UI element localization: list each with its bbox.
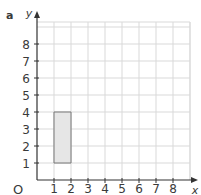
part-label: a [6,9,13,22]
x-tick-label: 7 [152,182,160,195]
y-tick-label: 2 [22,140,30,154]
x-tick-label: 8 [169,182,177,195]
x-tick-label: 4 [101,182,109,195]
y-tick-label: 7 [22,55,30,69]
y-tick-label: 8 [22,38,30,52]
rectangle-shape [54,112,71,163]
y-tick-label: 1 [22,157,30,171]
x-tick-label: 5 [118,182,126,195]
coordinate-grid-figure: a 1234567812345678Oxy [0,0,201,195]
y-tick-label: 5 [22,89,30,103]
y-tick-label: 4 [22,106,30,120]
y-tick-label: 6 [22,72,30,86]
y-axis-label: y [25,7,33,20]
x-axis-label: x [191,184,199,195]
x-tick-label: 3 [84,182,92,195]
x-tick-label: 6 [135,182,143,195]
x-tick-label: 2 [67,182,75,195]
x-axis-arrow-icon [191,177,198,183]
y-axis-arrow-icon [34,11,40,18]
y-tick-label: 3 [22,123,30,137]
origin-label: O [13,182,23,195]
coordinate-plane: 1234567812345678Oxy [0,0,201,195]
x-tick-label: 1 [50,182,58,195]
